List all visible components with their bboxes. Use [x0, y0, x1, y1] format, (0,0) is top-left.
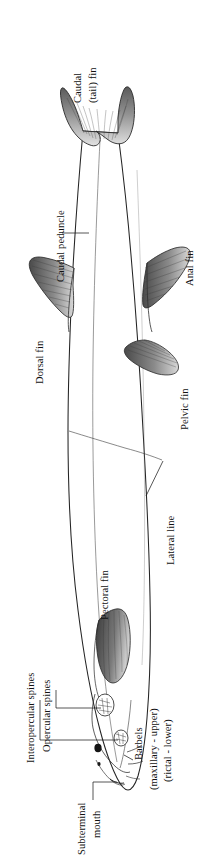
label-barbels: Barbels: [133, 727, 146, 760]
label-barbels-maxillary: (maxillary - upper): [148, 708, 161, 790]
eye: [94, 744, 101, 752]
leader-subterminal-mouth: [93, 782, 117, 800]
label-caudal-fin-line2: (tail) fin: [87, 67, 100, 103]
label-barbels-rictal: (rictal - lower): [162, 719, 175, 782]
label-anal-fin: Anal fin: [184, 251, 197, 287]
label-caudal-peduncle: Caudal peduncle: [55, 210, 68, 282]
label-subterminal-mouth: Subterminal: [76, 803, 89, 855]
label-dorsal-fin: Dorsal fin: [34, 341, 47, 384]
interopercular-spine-cluster: [114, 730, 128, 746]
label-pelvic-fin: Pelvic fin: [179, 388, 192, 430]
label-interopercular-spines: Interopercular spines: [25, 673, 38, 763]
leader-lateral-line: [146, 461, 163, 496]
fish-anatomy-figure: Caudal (tail) fin Caudal peduncle Dorsal…: [0, 0, 200, 863]
label-pectoral-fin: Pectoral fin: [99, 570, 112, 620]
label-caudal-fin: Caudal: [72, 73, 85, 103]
label-caudal-fin-line1: Caudal: [72, 73, 85, 103]
label-caudal-fin-sub: (tail) fin: [87, 67, 100, 103]
body-outline: [68, 131, 150, 790]
label-lateral-line: Lateral line: [165, 516, 178, 565]
fish-body: [68, 131, 150, 790]
opercular-spine-cluster: [96, 694, 114, 716]
label-subterminal-mouth-line2: mouth: [91, 811, 104, 838]
label-opercular-spines: Opercular spines: [41, 680, 54, 752]
